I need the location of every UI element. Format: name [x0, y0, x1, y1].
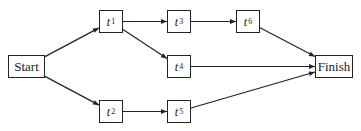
task-node-t1: t1	[99, 10, 123, 33]
t4-var: t	[175, 61, 178, 73]
finish-node: Finish	[315, 55, 353, 78]
t4-subscript: 4	[179, 63, 183, 71]
t6-var: t	[244, 16, 247, 28]
edge-t6-to-finish-arrow	[260, 28, 315, 57]
finish-label: Finish	[318, 60, 351, 73]
task-node-t6: t6	[236, 10, 260, 33]
t1-var: t	[107, 16, 110, 28]
t2-var: t	[107, 106, 110, 118]
t1-subscript: 1	[111, 18, 115, 26]
start-node: Start	[8, 55, 45, 78]
t3-subscript: 3	[179, 18, 183, 26]
t3-var: t	[175, 16, 178, 28]
t2-subscript: 2	[111, 108, 115, 116]
edge-start-to-t2-arrow	[45, 76, 99, 105]
t5-var: t	[175, 106, 178, 118]
t5-subscript: 5	[179, 108, 183, 116]
task-node-t3: t3	[167, 10, 191, 33]
task-node-t5: t5	[167, 100, 191, 123]
task-node-t2: t2	[99, 100, 123, 123]
edge-start-to-t1-arrow	[45, 28, 99, 57]
edge-t1-to-t4-arrow	[123, 29, 167, 58]
t6-subscript: 6	[248, 18, 252, 26]
start-label: Start	[14, 60, 39, 73]
edge-t5-to-finish-arrow	[191, 72, 315, 108]
task-node-t4: t4	[167, 55, 191, 78]
